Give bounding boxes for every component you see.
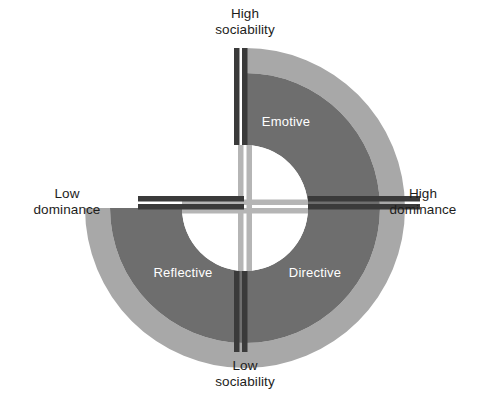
axis-label-line: High <box>362 186 484 202</box>
axis-bar-bottom <box>234 271 240 352</box>
quadrant-label-emotive: Emotive <box>262 114 310 129</box>
axis-label-high-sociability: High sociability <box>0 6 490 38</box>
axis-label-line: Low <box>6 186 128 202</box>
axis-label-line: Low <box>0 358 490 374</box>
axis-label-line: High <box>0 6 490 22</box>
quadrant-label-reflective: Reflective <box>153 265 212 280</box>
axis-label-line: sociability <box>0 22 490 38</box>
diagram-canvas: High sociability Low sociability Low dom… <box>0 0 490 409</box>
axis-label-high-dominance: High dominance <box>362 186 484 218</box>
quadrant-label-directive: Directive <box>289 265 341 280</box>
axis-label-line: sociability <box>0 374 490 390</box>
axis-label-line: dominance <box>362 202 484 218</box>
axis-label-line: dominance <box>6 202 128 218</box>
axis-label-low-dominance: Low dominance <box>6 186 128 218</box>
axis-bar-top <box>234 48 240 145</box>
axis-label-low-sociability: Low sociability <box>0 358 490 390</box>
axis-bar-left <box>138 196 244 202</box>
